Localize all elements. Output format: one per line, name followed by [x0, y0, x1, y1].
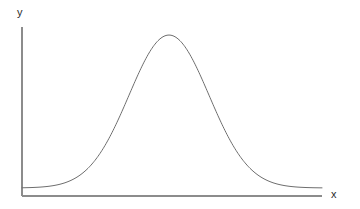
bell-curve-figure: y x	[0, 0, 360, 209]
plot-canvas	[0, 0, 360, 209]
y-axis-label: y	[17, 7, 23, 18]
x-axis-label: x	[331, 189, 337, 200]
normal-distribution-curve	[22, 35, 322, 188]
